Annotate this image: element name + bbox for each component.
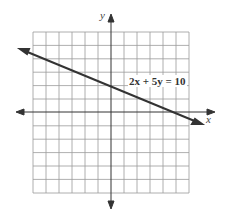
x-axis-label: x [206,113,211,125]
y-axis-up-arrow-icon [108,14,114,22]
line-left-arrow-icon [20,49,29,54]
line-right-arrow-icon [192,119,202,124]
y-axis-down-arrow-icon [108,201,114,209]
equation-label: 2x + 5y = 10 [128,75,187,87]
y-axis-label: y [100,9,105,21]
x-axis-left-arrow-icon [16,109,24,115]
coordinate-graph [0,0,225,220]
